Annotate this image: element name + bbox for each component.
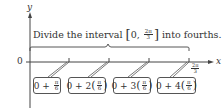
subinterval-box-4: 0 + 4( π 6 ): [157, 77, 196, 94]
box-2-fraction: π 6: [97, 80, 103, 92]
caption-suffix: into fourths.: [162, 29, 221, 40]
subinterval-box-3: 0 + 3( π 6 ): [113, 77, 151, 94]
diagram-canvas: [0, 0, 223, 111]
origin-label: 0: [17, 57, 23, 66]
subinterval-box-1: 0 + π 6: [33, 77, 61, 94]
interval-brace: [30, 44, 189, 51]
end-label-fraction: 2π 3: [191, 63, 199, 74]
x-axis-label: x: [216, 57, 221, 66]
box-4-fraction: π 6: [186, 80, 192, 92]
caption: Divide the interval [ [0, 0, 2π 3 ] into…: [33, 28, 221, 41]
interval-zero: 0,: [131, 29, 143, 40]
y-axis-label: y: [27, 3, 32, 12]
box-1-fraction: π 6: [54, 80, 60, 92]
x-axis-arrow-icon: [208, 60, 214, 64]
interval-close: ]: [154, 28, 159, 41]
subinterval-box-2: 0 + 2( π 6 ): [68, 77, 106, 94]
caption-prefix: Divide the interval: [33, 29, 123, 40]
box-3-fraction: π 6: [142, 80, 148, 92]
interval-fraction: 2π 3: [144, 29, 153, 41]
y-axis-arrow-icon: [28, 12, 32, 18]
connectors: [48, 62, 189, 77]
